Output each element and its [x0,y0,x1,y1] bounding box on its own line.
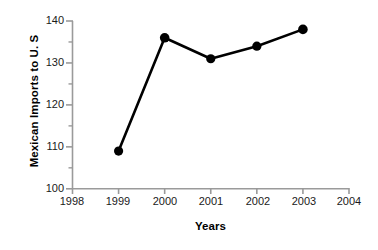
data-series-line [119,29,303,151]
data-point-2003 [298,25,308,35]
plot-area [0,0,378,250]
data-point-1999 [114,146,123,155]
data-point-2001 [206,54,215,63]
line-chart-figure: Mexican Imports to U. S 140 130 120 110 … [0,0,378,250]
data-point-2000 [160,33,170,43]
data-point-2002 [252,42,261,51]
